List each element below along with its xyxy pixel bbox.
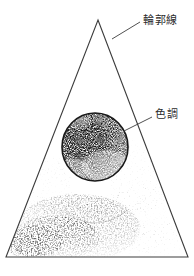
label-tone: 色調 (155, 109, 178, 121)
label-contour-line: 輪郭線 (143, 15, 178, 27)
illustration-canvas (0, 0, 194, 276)
